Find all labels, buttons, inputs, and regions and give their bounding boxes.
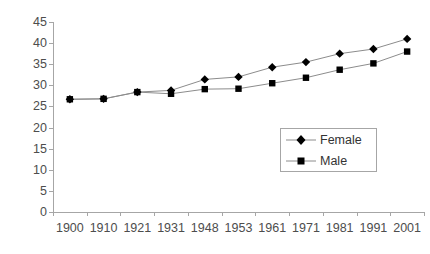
data-point-female-1948 bbox=[201, 75, 209, 83]
x-axis-tick-label: 1953 bbox=[225, 222, 253, 235]
x-axis-tick bbox=[255, 212, 256, 216]
data-point-female-2001 bbox=[403, 35, 411, 43]
y-axis-tick-label: 10 bbox=[33, 164, 47, 177]
x-axis-tick-label: 1948 bbox=[191, 222, 219, 235]
legend-entry-female: Female bbox=[281, 129, 376, 151]
plot-area: 051015202530354045 190019101921193119481… bbox=[53, 22, 424, 212]
x-axis-tick-label: 1900 bbox=[56, 222, 84, 235]
data-point-male-1971 bbox=[303, 75, 309, 81]
y-axis-tick-label: 5 bbox=[40, 185, 47, 198]
diamond-marker-icon bbox=[286, 132, 316, 148]
x-axis-tick bbox=[357, 212, 358, 216]
y-axis-tick-label: 30 bbox=[33, 79, 47, 92]
x-axis-tick bbox=[390, 212, 391, 216]
data-point-male-2001 bbox=[404, 48, 410, 54]
data-point-male-1900 bbox=[67, 96, 73, 102]
data-point-female-1981 bbox=[335, 49, 343, 57]
y-axis-tick-label: 45 bbox=[33, 16, 47, 29]
x-axis-tick bbox=[323, 212, 324, 216]
data-point-female-1991 bbox=[369, 45, 377, 53]
data-point-male-1921 bbox=[134, 89, 140, 95]
y-axis-tick-label: 0 bbox=[40, 206, 47, 219]
data-point-male-1931 bbox=[168, 91, 174, 97]
square-marker-icon bbox=[286, 153, 316, 169]
y-axis-tick-label: 20 bbox=[33, 121, 47, 134]
x-axis-tick-label: 1921 bbox=[123, 222, 151, 235]
data-point-male-1981 bbox=[336, 67, 342, 73]
data-point-female-1953 bbox=[234, 73, 242, 81]
x-axis-tick bbox=[424, 212, 425, 216]
x-axis-tick bbox=[289, 212, 290, 216]
x-axis-tick-label: 1991 bbox=[360, 222, 388, 235]
x-axis-tick bbox=[120, 212, 121, 216]
data-point-male-1948 bbox=[202, 86, 208, 92]
x-axis-tick bbox=[188, 212, 189, 216]
legend-entry-male: Male bbox=[281, 150, 376, 172]
x-axis-tick bbox=[222, 212, 223, 216]
y-axis-tick-label: 40 bbox=[33, 37, 47, 50]
x-axis-tick bbox=[87, 212, 88, 216]
data-point-male-1961 bbox=[269, 80, 275, 86]
data-point-female-1961 bbox=[268, 63, 276, 71]
x-axis-tick-label: 1910 bbox=[90, 222, 118, 235]
x-axis-tick-label: 1971 bbox=[292, 222, 320, 235]
legend-label-female: Female bbox=[320, 134, 362, 147]
y-axis-tick-label: 15 bbox=[33, 142, 47, 155]
x-axis-tick-label: 1981 bbox=[326, 222, 354, 235]
line-chart: 051015202530354045 190019101921193119481… bbox=[0, 0, 430, 254]
series-layer bbox=[53, 22, 424, 212]
data-point-female-1971 bbox=[302, 58, 310, 66]
data-point-male-1953 bbox=[235, 86, 241, 92]
x-axis-line bbox=[53, 212, 424, 213]
x-axis-tick-label: 1931 bbox=[157, 222, 185, 235]
chart-legend: Female Male bbox=[280, 128, 377, 172]
y-axis-tick-label: 35 bbox=[33, 58, 47, 71]
x-axis-tick bbox=[154, 212, 155, 216]
x-axis-tick-label: 2001 bbox=[393, 222, 421, 235]
data-point-male-1991 bbox=[370, 60, 376, 66]
y-axis-tick-label: 25 bbox=[33, 100, 47, 113]
legend-label-male: Male bbox=[320, 155, 347, 168]
x-axis-tick bbox=[53, 212, 54, 216]
data-point-male-1910 bbox=[100, 96, 106, 102]
x-axis-tick-label: 1961 bbox=[258, 222, 286, 235]
